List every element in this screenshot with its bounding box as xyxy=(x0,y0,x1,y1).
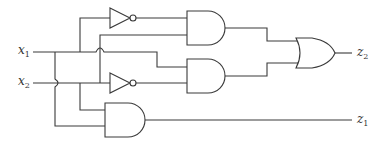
wire-and-top-to-or xyxy=(225,28,299,41)
and-gate-middle xyxy=(187,59,225,93)
output-label-z1: z1 xyxy=(357,113,368,128)
wire-and-middle-to-or xyxy=(225,63,299,76)
logic-circuit-diagram xyxy=(0,0,385,145)
and-gate-bottom xyxy=(105,103,145,137)
and-gate-top xyxy=(187,11,225,45)
not-gate-bottom xyxy=(110,73,136,93)
input-label-x2: x2 xyxy=(18,75,30,90)
input-label-x1: x1 xyxy=(18,44,30,59)
wire-x2-to-and-bottom xyxy=(80,83,105,110)
or-gate xyxy=(296,38,335,68)
wire-x1-main xyxy=(33,48,187,67)
not-gate-top xyxy=(110,8,136,28)
output-label-z2: z2 xyxy=(357,46,368,61)
